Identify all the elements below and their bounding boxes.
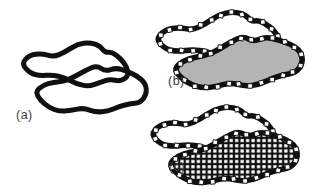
panel-label-a: (a) xyxy=(16,109,33,122)
contour-marker-square-icon xyxy=(209,18,214,23)
contour-marker-square-icon xyxy=(213,140,218,145)
contour-marker-square-icon xyxy=(233,131,239,136)
contour-marker-square-icon xyxy=(218,45,223,50)
contour-marker-square-icon xyxy=(191,48,196,53)
panel-label-c: (c) xyxy=(169,161,185,174)
contour-marker-square-icon xyxy=(198,22,203,27)
inner-region xyxy=(176,37,302,87)
contour-marker-square-icon xyxy=(174,143,180,148)
contour-marker-square-icon xyxy=(187,179,192,184)
contour-marker-square-icon xyxy=(229,10,234,15)
inner-region xyxy=(171,132,297,182)
panel-a-drawing xyxy=(12,32,152,122)
contour-marker-square-icon xyxy=(172,120,177,125)
contour-marker-square-icon xyxy=(158,33,163,38)
contour-marker-square-icon xyxy=(260,19,266,24)
contour-marker-square-icon xyxy=(244,132,249,137)
inner-region xyxy=(36,63,148,117)
contour-marker-square-icon xyxy=(239,12,245,18)
contour-marker-square-icon xyxy=(290,70,295,75)
contour-marker-square-icon xyxy=(153,128,158,133)
contour-marker-square-icon xyxy=(234,107,240,113)
contour-marker-square-icon xyxy=(292,45,297,50)
contour-marker-square-icon xyxy=(179,48,185,53)
contour-marker-square-icon xyxy=(177,25,182,30)
contour-marker-square-icon xyxy=(243,179,248,184)
contour-marker-square-icon xyxy=(215,84,220,89)
contour-marker-square-icon xyxy=(269,26,274,31)
panel-label-b: (b) xyxy=(168,75,185,88)
contour-marker-square-icon xyxy=(162,122,168,127)
contour-marker-square-icon xyxy=(287,140,292,145)
contour-marker-square-icon xyxy=(298,63,303,68)
contour-marker-square-icon xyxy=(254,131,260,137)
contour-marker-square-icon xyxy=(270,36,275,41)
contour-marker-square-icon xyxy=(255,114,261,119)
contour-marker-square-icon xyxy=(178,62,183,67)
contour-marker-square-icon xyxy=(213,108,219,113)
contour-marker-square-icon xyxy=(163,143,168,148)
contour-marker-square-icon xyxy=(282,39,288,44)
contour-marker-square-icon xyxy=(243,112,248,117)
contour-marker-square-icon xyxy=(229,40,234,45)
contour-marker-square-icon xyxy=(182,152,188,157)
contour-marker-square-icon xyxy=(152,136,158,142)
outer-contour xyxy=(22,38,129,88)
contour-marker-square-icon xyxy=(236,81,241,86)
contour-marker-square-icon xyxy=(277,134,283,139)
contour-marker-square-icon xyxy=(203,85,209,90)
panel-c-drawing xyxy=(141,96,303,193)
contour-marker-square-icon xyxy=(224,135,229,140)
contour-marker-square-icon xyxy=(254,175,260,180)
contour-marker-square-icon xyxy=(193,148,198,153)
contour-marker-square-icon xyxy=(299,52,304,57)
contour-marker-square-icon xyxy=(264,121,269,126)
contour-marker-square-icon xyxy=(270,77,275,81)
contour-marker-square-icon xyxy=(238,36,244,41)
contour-marker-square-icon xyxy=(192,84,197,89)
contour-marker-square-icon xyxy=(285,165,290,170)
contour-marker-square-icon xyxy=(224,105,229,110)
contour-marker-square-icon xyxy=(157,41,163,47)
contour-marker-square-icon xyxy=(193,117,198,122)
contour-marker-square-icon xyxy=(248,84,253,89)
contour-marker-square-icon xyxy=(188,27,193,32)
contour-marker-square-icon xyxy=(186,143,191,148)
contour-marker-square-icon xyxy=(221,176,226,181)
contour-marker-square-icon xyxy=(187,57,193,62)
contour-marker-square-icon xyxy=(259,36,265,42)
contour-marker-square-icon xyxy=(294,147,299,152)
contour-marker-square-icon xyxy=(208,51,213,56)
contour-marker-square-icon xyxy=(248,17,253,22)
contour-marker-square-icon xyxy=(280,73,286,78)
contour-marker-square-icon xyxy=(293,158,298,163)
contour-marker-square-icon xyxy=(275,168,281,173)
contour-marker-square-icon xyxy=(210,179,215,184)
contour-marker-square-icon xyxy=(167,27,173,32)
contour-marker-square-icon xyxy=(198,180,204,185)
contour-marker-square-icon xyxy=(226,81,231,86)
contour-marker-square-icon xyxy=(265,172,270,176)
contour-marker-square-icon xyxy=(218,13,224,18)
contour-marker-square-icon xyxy=(249,37,254,42)
contour-marker-square-icon xyxy=(204,113,209,118)
contour-marker-square-icon xyxy=(265,131,270,136)
contour-marker-square-icon xyxy=(168,48,173,53)
contour-marker-square-icon xyxy=(198,53,203,58)
contour-marker-square-icon xyxy=(259,80,265,85)
contour-marker-square-icon xyxy=(183,122,188,127)
contour-marker-square-icon xyxy=(231,176,236,181)
figure: (a) (b) (c) xyxy=(0,0,313,194)
contour-marker-square-icon xyxy=(203,146,208,151)
